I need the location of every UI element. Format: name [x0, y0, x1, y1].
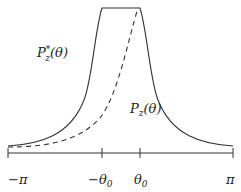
plot-canvas: −π −θ0 θ0 π P*z(θ) Pz(θ): [0, 0, 241, 192]
label-p-z: Pz(θ): [129, 101, 161, 118]
label-p-z-star: P*z(θ): [36, 44, 68, 63]
tick-label-pi: π: [225, 172, 235, 187]
tick-label-neg-theta0: −θ0: [88, 172, 113, 189]
tick-label-neg-pi: −π: [8, 172, 28, 187]
tick-label-theta0: θ0: [134, 172, 148, 189]
curve-p-z-star: [8, 8, 233, 146]
curve-p-z: [8, 8, 138, 147]
